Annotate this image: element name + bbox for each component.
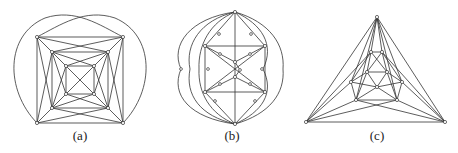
panel-b-label: (b)	[224, 128, 239, 144]
panel-a-graph	[14, 15, 146, 125]
panel-b-graph	[178, 10, 283, 125]
panel-c-label: (c)	[370, 128, 384, 144]
panel-c-graph	[304, 15, 446, 123]
panel-a-label: (a)	[73, 128, 87, 144]
